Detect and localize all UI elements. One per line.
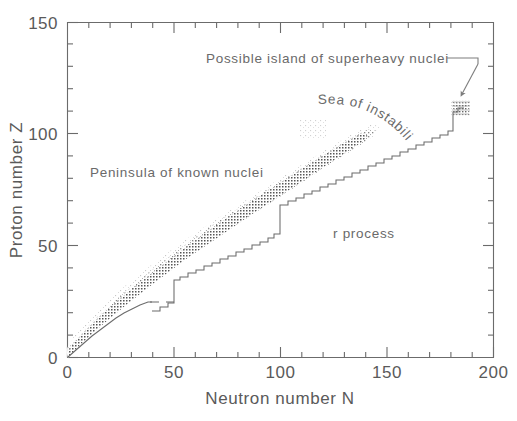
r-process-annotation-label: r process xyxy=(333,226,395,241)
island-annotation-label: Possible island of superheavy nuclei xyxy=(206,51,449,66)
y-tick-label-0: 0 xyxy=(48,349,58,368)
island-leader-line xyxy=(447,58,478,64)
chart-figure: 0 50 100 150 200 0 50 100 150 Neutron nu… xyxy=(0,0,517,421)
peninsula-mid-band xyxy=(67,129,376,357)
sea-of-instability-label: Sea of instability xyxy=(0,0,416,144)
peninsula-annotation-label: Peninsula of known nuclei xyxy=(90,165,264,180)
x-axis-title: Neutron number N xyxy=(205,389,354,408)
x-axis-top-ticks xyxy=(89,23,472,34)
y-axis-right-ticks xyxy=(483,44,494,335)
x-tick-label-100: 100 xyxy=(266,363,296,382)
r-process-path xyxy=(150,108,464,311)
y-axis-title: Proton number Z xyxy=(7,122,26,259)
island-leader-arrow xyxy=(462,64,478,94)
x-tick-label-200: 200 xyxy=(479,363,509,382)
y-tick-label-50: 50 xyxy=(38,237,58,256)
y-tick-label-100: 100 xyxy=(28,125,58,144)
y-tick-labels: 0 50 100 150 xyxy=(28,14,58,368)
y-tick-label-150: 150 xyxy=(28,14,58,33)
x-tick-label-50: 50 xyxy=(164,363,184,382)
x-tick-label-150: 150 xyxy=(372,363,402,382)
y-axis-ticks xyxy=(68,23,79,358)
x-axis-ticks xyxy=(68,347,494,358)
x-tick-label-0: 0 xyxy=(63,363,73,382)
x-tick-labels: 0 50 100 150 200 xyxy=(63,363,509,382)
faint-patch xyxy=(300,118,326,138)
nuclide-chart-svg: 0 50 100 150 200 0 50 100 150 Neutron nu… xyxy=(0,0,517,421)
